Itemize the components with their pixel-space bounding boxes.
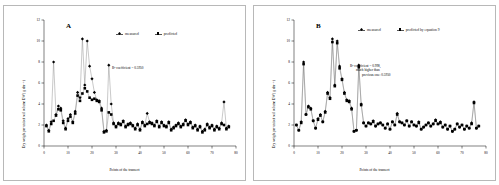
svg-text:8: 8 (38, 60, 40, 64)
x-axis-title-a: Points of the transect (4, 168, 245, 172)
panel-letter-b: B (316, 22, 321, 30)
figure-container: 01020304050607080024681012 A measured pr… (0, 0, 499, 185)
svg-text:10: 10 (316, 151, 320, 155)
diamond-marker-icon (116, 32, 123, 37)
legend-item-measured-a: measured (116, 32, 139, 37)
svg-text:6: 6 (38, 81, 40, 85)
svg-text:2: 2 (38, 123, 40, 127)
svg-text:50: 50 (412, 151, 416, 155)
svg-text:70: 70 (460, 151, 464, 155)
svg-text:60: 60 (186, 151, 190, 155)
svg-text:80: 80 (484, 151, 488, 155)
svg-text:70: 70 (210, 151, 214, 155)
annotation-r2-a: R² coefficient = 0.5950 (112, 66, 144, 71)
svg-text:4: 4 (288, 102, 290, 106)
legend-a: measured predicted (116, 32, 177, 37)
svg-text:40: 40 (388, 151, 392, 155)
square-marker-icon (397, 28, 404, 33)
svg-text:0: 0 (293, 151, 295, 155)
svg-text:10: 10 (37, 39, 41, 43)
legend-label-measured-a: measured (125, 32, 139, 36)
legend-b: measured predicted by equation 9 (358, 28, 440, 33)
panel-letter-a: A (66, 22, 71, 30)
annotation-r2-b: R² coefficient = 0.998, much higher than… (350, 64, 391, 79)
svg-text:2: 2 (288, 123, 290, 127)
svg-text:0: 0 (288, 144, 290, 148)
svg-text:0: 0 (43, 151, 45, 155)
svg-text:10: 10 (66, 151, 70, 155)
svg-text:12: 12 (287, 18, 291, 22)
svg-text:4: 4 (38, 102, 40, 106)
diamond-marker-icon (358, 28, 365, 33)
legend-item-predicted-a: predicted (155, 32, 177, 37)
chart-panel-b: 01020304050607080024681012 B measured pr… (253, 5, 496, 181)
legend-label-predicted-b: predicted by equation 9 (406, 28, 440, 32)
legend-item-predicted-b: predicted by equation 9 (397, 28, 440, 33)
svg-text:30: 30 (364, 151, 368, 155)
svg-text:50: 50 (162, 151, 166, 155)
svg-text:30: 30 (114, 151, 118, 155)
svg-text:40: 40 (138, 151, 142, 155)
legend-item-measured-b: measured (358, 28, 381, 33)
svg-text:80: 80 (234, 151, 238, 155)
svg-text:8: 8 (288, 60, 290, 64)
svg-text:20: 20 (340, 151, 344, 155)
svg-text:10: 10 (287, 39, 291, 43)
square-marker-icon (155, 32, 162, 37)
svg-text:6: 6 (288, 81, 290, 85)
svg-text:12: 12 (37, 18, 41, 22)
legend-label-measured-b: measured (367, 28, 381, 32)
svg-text:60: 60 (436, 151, 440, 155)
annotation-line-3: previous one: 0.5950 (350, 73, 391, 78)
y-axis-title-b: Dry weight per unit of soil volume DW ( … (272, 79, 276, 147)
x-axis-title-b: Points of the transect (254, 168, 495, 172)
svg-text:0: 0 (38, 144, 40, 148)
svg-text:20: 20 (90, 151, 94, 155)
chart-panel-a: 01020304050607080024681012 A measured pr… (3, 5, 246, 181)
y-axis-title-a: Dry weight per unit of soil volume DW ( … (22, 79, 26, 147)
legend-label-predicted-a: predicted (164, 32, 177, 36)
